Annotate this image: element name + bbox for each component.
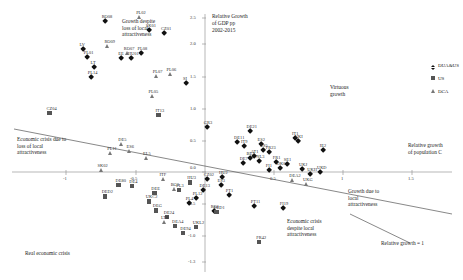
y-tick-label-neg-1-0: -1.0 xyxy=(188,233,195,238)
data-point-label: DE80 xyxy=(115,178,125,183)
data-point-label: PL06 xyxy=(167,67,177,72)
data-point-label: RO08 xyxy=(102,14,113,19)
data-point-label: UKH xyxy=(307,167,317,172)
square-marker-icon xyxy=(103,194,107,198)
data-point-label: FR1 xyxy=(273,155,281,160)
data-point xyxy=(227,193,231,197)
data-point xyxy=(184,81,188,85)
data-point-label: DE7 xyxy=(240,156,248,161)
data-point xyxy=(181,231,185,235)
square-marker-icon xyxy=(181,231,185,235)
triangle-marker-icon xyxy=(108,151,112,155)
data-point-label: PL11 xyxy=(107,146,117,151)
diamond-marker-icon xyxy=(128,55,134,61)
square-marker-icon xyxy=(130,184,134,188)
legend-item-dca: DCA xyxy=(431,88,459,94)
x-tick-label-neg-1: -1 xyxy=(63,176,67,181)
diamond-marker-icon xyxy=(219,174,225,180)
data-point-label: PL02 xyxy=(136,10,146,15)
diamond-marker-icon xyxy=(251,203,257,209)
data-point-label: ES6 xyxy=(126,144,133,149)
triangle-marker-icon xyxy=(172,187,176,191)
triangle-marker-icon xyxy=(144,156,148,160)
y-tick-label-neg-1-3: -1.3 xyxy=(188,259,195,264)
data-point-label: IT13 xyxy=(155,108,164,113)
data-point xyxy=(154,74,158,78)
diamond-marker-icon xyxy=(204,176,210,182)
triangle-marker-icon xyxy=(119,142,123,146)
data-point xyxy=(129,56,133,60)
diamond-marker-icon xyxy=(266,167,272,173)
square-marker-icon xyxy=(147,199,151,203)
data-point xyxy=(154,208,158,212)
data-point-label: DEA4 xyxy=(172,219,183,224)
diamond-marker-icon xyxy=(234,140,240,146)
square-marker-icon xyxy=(257,240,261,244)
square-marker-icon xyxy=(154,208,158,212)
data-point-label: FI1 xyxy=(266,163,272,168)
data-point xyxy=(89,75,93,79)
data-point-label: BG3 xyxy=(171,182,179,187)
data-point-label: PL14 xyxy=(88,70,98,75)
chart-axes-layer xyxy=(0,0,463,280)
data-point-label: DED1 xyxy=(213,205,224,210)
triangle-marker-icon xyxy=(162,220,166,224)
data-point xyxy=(220,175,224,179)
data-point xyxy=(241,161,245,165)
data-point-label: DED2 xyxy=(102,189,113,194)
data-point-label: PT1 xyxy=(226,188,233,193)
square-marker-icon xyxy=(156,113,160,117)
diamond-marker-icon xyxy=(146,27,152,33)
data-point xyxy=(130,184,134,188)
data-point-label: CZ04 xyxy=(46,106,56,111)
data-point-label: GR3 xyxy=(204,120,212,125)
y-tick-label-0-5: 0.5 xyxy=(190,138,196,143)
data-point-label: EL5 xyxy=(143,151,151,156)
data-point xyxy=(242,144,246,148)
data-point-label: HU01 xyxy=(128,51,139,56)
data-point-label: IE2 xyxy=(320,143,327,148)
data-point-label: UKJ xyxy=(299,162,307,167)
data-point-label: DEG xyxy=(153,203,162,208)
diamond-marker-icon xyxy=(88,74,94,80)
diamond-marker-icon xyxy=(241,143,247,149)
data-point-label: EE xyxy=(118,51,123,56)
triangle-marker-icon xyxy=(168,72,172,76)
data-point xyxy=(103,19,107,23)
data-point xyxy=(156,113,160,117)
data-point-label: PL08 xyxy=(138,46,148,51)
y-tick-label-1-0: 1.0 xyxy=(190,106,196,111)
data-point-label: DE21 xyxy=(247,124,257,129)
scatter-chart: 2.5 2.0 1.5 1.0 0.5 0.0 -0.5 -1.0 -1.3 -… xyxy=(0,0,463,280)
data-point xyxy=(119,56,123,60)
data-point xyxy=(119,142,123,146)
triangle-marker-icon xyxy=(137,15,141,19)
data-point-label: PL01 xyxy=(84,50,94,55)
data-point-label: DEA2 xyxy=(289,173,300,178)
data-point xyxy=(125,51,129,55)
data-point xyxy=(139,51,143,55)
data-point xyxy=(162,220,166,224)
diamond-marker-icon xyxy=(226,192,232,198)
data-point xyxy=(252,204,256,208)
legend-item-us: US xyxy=(431,75,459,81)
data-point-label: DE94 xyxy=(180,226,190,231)
square-marker-icon xyxy=(214,210,218,214)
data-point-label: FR42 xyxy=(256,235,266,240)
diamond-marker-icon xyxy=(193,195,199,201)
annotation-economic-crisis-despite: Economic crisis despite local attractive… xyxy=(287,218,322,238)
data-point xyxy=(152,191,156,195)
data-point-label: IT9 xyxy=(241,139,248,144)
data-point xyxy=(47,111,51,115)
data-point xyxy=(127,149,131,153)
x-tick-label-1-5: 1.5 xyxy=(408,176,414,181)
data-point xyxy=(137,15,141,19)
legend-item-dua-us: DUA&US xyxy=(431,62,459,68)
square-marker-icon xyxy=(152,191,156,195)
data-point xyxy=(304,182,308,186)
data-point xyxy=(205,125,209,129)
data-point-label: SK01 xyxy=(146,23,156,28)
diamond-marker-icon xyxy=(280,205,286,211)
diamond-marker-icon xyxy=(102,18,108,24)
data-point xyxy=(278,166,282,170)
